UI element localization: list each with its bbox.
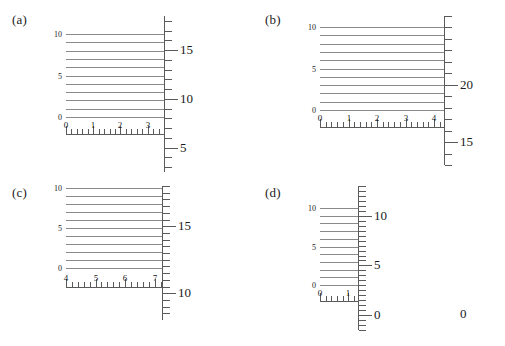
x-axis-tick-label: 3 [404,113,409,123]
x-axis-minor-tick [326,122,327,127]
data-line [66,92,164,93]
right-axis-major-tick [359,216,372,217]
right-axis-minor-tick [165,157,172,158]
right-axis-minor-tick [359,251,366,252]
right-axis-major-tick [445,142,458,143]
right-axis-minor-tick [359,270,366,271]
data-line [66,252,162,253]
data-line [320,262,358,263]
right-axis-tick-label: 15 [460,134,473,150]
right-axis-minor-tick [445,154,452,155]
right-axis-minor-tick [359,211,366,212]
data-line [320,52,444,53]
left-axis-tick-label: 10 [44,30,62,39]
x-axis-tick-label: 1 [347,113,352,123]
right-axis-minor-tick [163,240,170,241]
panel-label: (d) [265,185,281,201]
data-line [320,216,358,217]
data-line [320,35,444,36]
x-axis-minor-tick [343,296,344,301]
right-axis-minor-tick [165,70,172,71]
left-axis-tick-label: 0 [298,106,316,115]
right-axis-minor-tick [359,285,366,286]
right-axis-minor-tick [163,220,170,221]
right-axis-minor-tick [165,128,172,129]
right-axis-minor-tick [359,290,366,291]
right-axis-major-tick [445,85,458,86]
x-axis-minor-tick [331,122,332,127]
right-axis-minor-tick [359,191,366,192]
data-line [320,85,444,86]
x-axis-minor-tick [343,122,344,127]
left-axis-tick-label: 5 [44,72,62,81]
x-axis-minor-tick [82,129,83,134]
left-axis-tick-label: 0 [44,264,62,273]
x-axis-minor-tick [77,129,78,134]
right-axis-minor-tick [163,193,170,194]
x-axis-tick-label: 3 [146,120,151,130]
right-axis-tick-label: 10 [178,285,191,301]
right-axis-tick-label: 10 [374,208,387,224]
data-line [320,44,444,45]
right-axis-minor-tick [359,221,366,222]
data-line [66,34,164,35]
right-axis-major-tick [165,99,178,100]
x-axis-tick-label: 7 [153,273,158,283]
data-line [320,254,358,255]
x-axis-minor-tick [78,282,79,287]
right-axis-minor-tick [163,273,170,274]
x-axis-minor-tick [440,122,441,127]
right-axis-major-tick [163,293,176,294]
x-axis-minor-tick [104,129,105,134]
right-axis-minor-tick [359,330,366,331]
x-axis-minor-tick [360,122,361,127]
right-axis-minor-tick [359,186,366,187]
right-axis-minor-tick [359,320,366,321]
x-axis-minor-tick [366,122,367,127]
x-axis-minor-tick [84,282,85,287]
right-axis-minor-tick [359,295,366,296]
right-axis-minor-tick [163,313,170,314]
data-line [320,27,444,28]
data-line [66,268,162,269]
data-line [320,77,444,78]
data-line [320,69,444,70]
x-axis-minor-tick [383,122,384,127]
x-axis-tick-label: 1 [91,120,96,130]
x-axis-line [320,301,358,302]
right-axis-major-tick [163,226,176,227]
left-axis-tick-label: 5 [298,243,316,252]
right-axis-minor-tick [163,253,170,254]
x-axis-minor-tick [354,296,355,301]
data-line [320,277,358,278]
data-line [320,223,358,224]
x-axis-minor-tick [337,122,338,127]
x-axis-minor-tick [101,282,102,287]
x-axis-minor-tick [115,129,116,134]
right-axis-tick-label: 15 [180,42,193,58]
x-axis-line [66,134,164,135]
panel-label: (b) [265,12,281,28]
right-axis-tick-label: 15 [178,218,191,234]
right-axis-minor-tick [445,119,452,120]
right-axis-tick-label: 10 [180,91,193,107]
x-axis-minor-tick [159,129,160,134]
data-line [66,228,162,229]
x-axis-minor-tick [326,296,327,301]
right-axis-minor-tick [445,50,452,51]
x-axis-line [320,127,444,128]
right-axis-tick-label: 5 [180,140,187,156]
left-axis-tick-label: 0 [298,281,316,290]
data-line [320,247,358,248]
x-axis-minor-tick [107,282,108,287]
right-axis-minor-tick [359,201,366,202]
right-axis-minor-tick [165,60,172,61]
right-axis-minor-tick [359,206,366,207]
right-axis-major-tick [165,148,178,149]
data-line [66,188,162,189]
right-axis-minor-tick [445,96,452,97]
right-axis-minor-tick [445,165,452,166]
data-line [66,117,164,118]
x-axis-tick-label: 0 [318,113,323,123]
x-axis-tick-label: 6 [123,273,128,283]
